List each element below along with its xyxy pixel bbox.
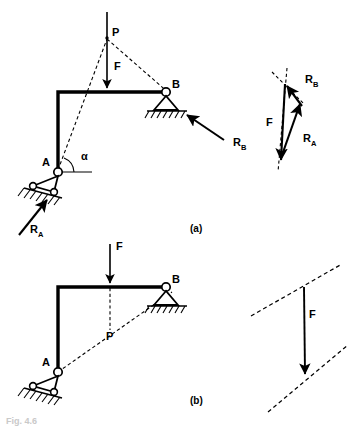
label-F-diagram-b: F bbox=[309, 308, 316, 320]
label-RA-sub-a: A bbox=[38, 230, 44, 239]
label-A-a: A bbox=[42, 156, 50, 168]
roller-1-A-b bbox=[30, 383, 37, 390]
figure-caption: Fig. 4.6 bbox=[6, 416, 37, 426]
concurrency-point-P-a bbox=[105, 36, 108, 39]
label-RB-main-triangle: R bbox=[305, 73, 313, 85]
label-RB-main-a: R bbox=[233, 136, 241, 148]
label-RA-main-a: R bbox=[30, 223, 38, 235]
roller-1-A-a bbox=[30, 183, 37, 190]
label-A-b: A bbox=[42, 356, 50, 368]
part-label-a: (a) bbox=[190, 223, 202, 234]
label-F-a: F bbox=[114, 60, 121, 72]
part-label-b: (b) bbox=[190, 395, 203, 406]
label-B-a: B bbox=[172, 78, 180, 90]
vector-F-diagram-b bbox=[304, 287, 305, 374]
pin-circle-A-b bbox=[54, 368, 62, 376]
label-RA-sub-triangle: A bbox=[311, 139, 317, 148]
figure-background bbox=[0, 0, 350, 427]
pin-circle-A-a bbox=[54, 168, 62, 176]
roller-2-A-b bbox=[51, 389, 58, 396]
label-P-b: P bbox=[106, 330, 113, 342]
statics-figure: P F A B α R A R B F R A R B (a) bbox=[0, 0, 350, 427]
label-P-a: P bbox=[112, 26, 119, 38]
label-F-b: F bbox=[116, 240, 123, 252]
label-RA-main-triangle: R bbox=[303, 132, 311, 144]
label-alpha-a: α bbox=[81, 150, 88, 162]
label-B-b: B bbox=[172, 273, 180, 285]
roller-2-A-a bbox=[51, 189, 58, 196]
label-F-triangle: F bbox=[266, 116, 273, 128]
label-RB-sub-a: B bbox=[241, 143, 247, 152]
label-RB-sub-triangle: B bbox=[313, 80, 319, 89]
